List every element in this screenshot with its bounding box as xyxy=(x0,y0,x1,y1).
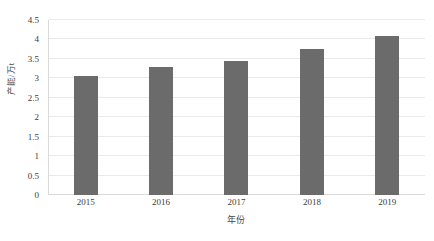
y-axis-tick-label: 1.5 xyxy=(28,132,39,141)
y-axis-tick-label: 2.5 xyxy=(28,93,39,102)
y-axis-tick-label: 4 xyxy=(35,35,40,44)
bar-slot xyxy=(199,20,274,195)
bar-slot xyxy=(48,20,123,195)
bar[interactable] xyxy=(375,36,399,195)
y-axis-tick-label: 0 xyxy=(35,191,40,200)
bar-chart: 产能/万t 00.511.522.533.544.5 2015201620172… xyxy=(0,0,434,241)
bar-slot xyxy=(123,20,198,195)
y-axis-tick-label: 1 xyxy=(35,152,40,161)
y-axis-tick-label: 0.5 xyxy=(28,171,39,180)
x-axis-tick-labels: 20152016201720182019 xyxy=(48,197,425,211)
bars-layer xyxy=(48,20,425,195)
x-axis-tick-label: 2016 xyxy=(152,197,170,208)
bar[interactable] xyxy=(149,67,173,195)
x-axis-tick-label: 2019 xyxy=(378,197,396,208)
x-axis-title: 年份 xyxy=(48,215,425,226)
y-axis-tick-label: 4.5 xyxy=(28,16,39,25)
bar-slot xyxy=(274,20,349,195)
bar[interactable] xyxy=(300,49,324,195)
bar[interactable] xyxy=(224,61,248,195)
x-axis-tick-label: 2017 xyxy=(228,197,246,208)
x-axis-tick-label: 2015 xyxy=(77,197,95,208)
y-axis-tick-label: 3 xyxy=(35,74,40,83)
y-axis-tick-label: 3.5 xyxy=(28,54,39,63)
bar[interactable] xyxy=(74,76,98,195)
bar-slot xyxy=(350,20,425,195)
x-axis-tick-label: 2018 xyxy=(303,197,321,208)
y-axis-tick-label: 2 xyxy=(35,113,40,122)
y-axis-tick-labels: 00.511.522.533.544.5 xyxy=(0,20,44,195)
